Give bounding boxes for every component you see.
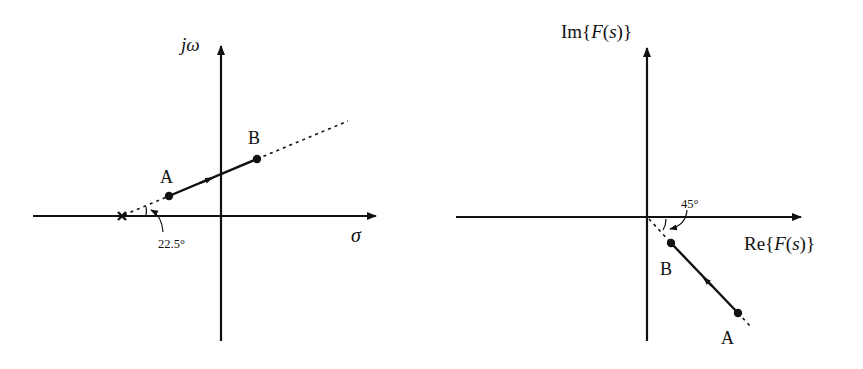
- path-a-to-b: [169, 159, 257, 196]
- point-a-label: A: [160, 167, 173, 187]
- direction-arrow-icon: [704, 278, 712, 286]
- angle-pointer: [151, 210, 163, 232]
- im-axis-label: Im{F(s)}: [561, 21, 632, 43]
- point-a: [734, 309, 742, 317]
- jw-axis-label: jω: [178, 34, 200, 55]
- f-plane-diagram: Im{F(s)} Re{F(s)} B A 45°: [456, 21, 815, 348]
- point-b-label: B: [660, 259, 672, 279]
- angle-label: 22.5°: [158, 237, 185, 251]
- dotted-ray-origin-to-b: [649, 219, 671, 243]
- sigma-axis-label: σ: [351, 224, 362, 246]
- angle-arc: [663, 219, 666, 230]
- diagram-canvas: jω σ A B 22.5° Im{F(s)} Re{F(s)}: [0, 0, 863, 369]
- angle-pointer: [670, 210, 687, 229]
- point-b: [667, 239, 675, 247]
- point-b-label: B: [248, 128, 260, 148]
- re-axis-label: Re{F(s)}: [744, 233, 815, 255]
- dotted-ray-b-onward: [257, 121, 348, 159]
- direction-arrow-icon: [200, 178, 212, 183]
- s-plane-diagram: jω σ A B 22.5°: [33, 34, 376, 341]
- angle-arc: [146, 207, 147, 215]
- angle-label: 45°: [681, 197, 699, 211]
- point-b: [253, 155, 261, 163]
- point-a-label: A: [721, 328, 734, 348]
- point-a: [165, 192, 173, 200]
